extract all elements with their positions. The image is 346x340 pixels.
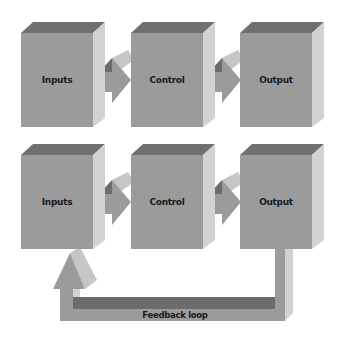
box-inputs: Inputs bbox=[21, 144, 105, 249]
box-label: Output bbox=[259, 75, 294, 85]
box-output: Output bbox=[240, 22, 324, 127]
box-label: Inputs bbox=[42, 197, 72, 207]
box-label: Output bbox=[259, 197, 294, 207]
feedback-loop-arrow-icon: Feedback loop bbox=[53, 240, 293, 321]
feedback-loop-label: Feedback loop bbox=[142, 310, 208, 320]
box-label: Control bbox=[149, 75, 184, 85]
control-system-diagram: Inputs Control Output bbox=[0, 0, 346, 340]
diagram-canvas: Inputs Control Output bbox=[0, 0, 346, 340]
box-label: Control bbox=[149, 197, 184, 207]
row-open-loop: Inputs Control Output bbox=[21, 22, 324, 127]
box-control: Control bbox=[131, 22, 215, 127]
box-inputs: Inputs bbox=[21, 22, 105, 127]
row-closed-loop: Feedback loop Inputs Control Output bbox=[21, 144, 324, 321]
box-output: Output bbox=[240, 144, 324, 249]
box-label: Inputs bbox=[42, 75, 72, 85]
box-control: Control bbox=[131, 144, 215, 249]
